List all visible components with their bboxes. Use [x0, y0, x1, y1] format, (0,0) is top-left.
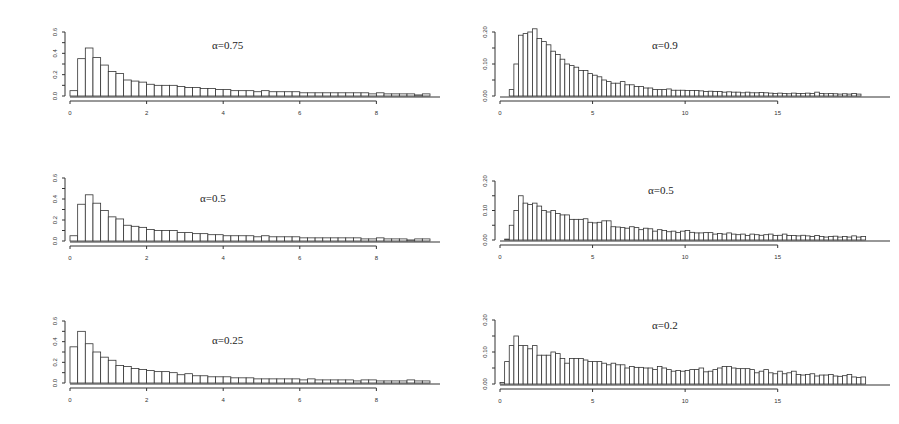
histogram-bar	[78, 331, 86, 383]
histogram-panel-middle-left: 024680.00.20.40.6α=0.5	[30, 168, 440, 268]
histogram-bar	[509, 90, 514, 96]
histogram-svg: 0510150.000.100.20α=0.2	[470, 305, 890, 405]
histogram-bar	[185, 374, 193, 383]
histogram-bar	[514, 64, 519, 96]
histogram-bar	[639, 86, 644, 96]
histogram-bar	[200, 234, 208, 241]
histogram-bar	[778, 371, 783, 384]
histogram-bar	[727, 92, 732, 96]
histogram-bar	[78, 204, 86, 241]
histogram-bar	[200, 376, 208, 383]
histogram-bar	[208, 377, 216, 383]
histogram-bar	[147, 229, 155, 241]
x-tick-label: 0	[68, 110, 72, 116]
histogram-panel-top-left: 024680.00.20.40.6α=0.75	[30, 22, 440, 122]
histogram-bar	[330, 238, 338, 241]
x-tick-label: 2	[145, 110, 149, 116]
histogram-bar	[574, 358, 579, 384]
histogram-bar	[653, 231, 658, 240]
histogram-bar	[685, 91, 690, 96]
histogram-bar	[856, 94, 861, 96]
histogram-bar	[597, 362, 602, 384]
panel-title: α=0.75	[212, 39, 244, 51]
histogram-bar	[824, 94, 829, 96]
histogram-bar	[602, 363, 607, 384]
histogram-bar	[93, 203, 101, 241]
histogram-bar	[616, 227, 621, 240]
histogram-bar	[611, 363, 616, 384]
histogram-bar	[829, 93, 834, 96]
y-tick-label: 0.20	[482, 175, 488, 187]
histogram-bar	[690, 370, 695, 384]
histogram-bar	[369, 94, 377, 96]
histogram-bar	[193, 376, 201, 383]
histogram-bar	[269, 92, 277, 96]
histogram-bar	[755, 373, 760, 384]
y-tick-label: 0.2	[52, 358, 58, 367]
histogram-bar	[648, 88, 653, 96]
panel-title: α=0.5	[648, 184, 674, 196]
x-tick-label: 10	[682, 398, 689, 404]
histogram-bar	[108, 217, 116, 241]
histogram-bar	[384, 239, 392, 241]
x-tick-label: 15	[774, 254, 781, 260]
histogram-bar	[745, 369, 750, 384]
histogram-bar	[630, 227, 635, 240]
bars	[70, 48, 430, 96]
histogram-bar	[323, 93, 331, 96]
histogram-bar	[300, 93, 308, 96]
histogram-bar	[731, 92, 736, 96]
histogram-bar	[597, 222, 602, 240]
histogram-bar	[139, 227, 147, 241]
histogram-bar	[842, 236, 847, 240]
y-tick-label: 0.0	[52, 378, 58, 387]
histogram-bar	[778, 235, 783, 240]
histogram-bar	[528, 205, 533, 240]
histogram-bar	[805, 93, 810, 96]
histogram-bar	[842, 94, 847, 96]
histogram-bar	[193, 87, 201, 96]
histogram-bar	[116, 365, 124, 383]
x-tick-label: 4	[222, 110, 226, 116]
histogram-bar	[805, 236, 810, 240]
histogram-bar	[708, 91, 713, 96]
histogram-bar	[588, 222, 593, 240]
histogram-bar	[246, 91, 254, 96]
histogram-bar	[616, 365, 621, 384]
histogram-bar	[330, 93, 338, 96]
panel-title: α=0.9	[652, 39, 678, 51]
histogram-bar	[713, 370, 718, 384]
y-tick-label: 0.6	[52, 316, 58, 325]
histogram-bar	[602, 80, 607, 96]
x-tick-label: 8	[375, 110, 379, 116]
histogram-bar	[611, 227, 616, 240]
x-tick-label: 5	[591, 398, 595, 404]
histogram-bar	[829, 374, 834, 384]
histogram-bar	[833, 376, 838, 384]
histogram-bar	[648, 368, 653, 384]
histogram-bar	[528, 349, 533, 384]
histogram-bar	[415, 381, 423, 383]
histogram-bar	[690, 91, 695, 96]
histogram-svg: 024680.00.20.40.6α=0.75	[30, 22, 440, 122]
histogram-bar	[384, 381, 392, 383]
histogram-bar	[768, 373, 773, 384]
histogram-bar	[565, 64, 570, 96]
histogram-bar	[500, 382, 505, 384]
bars	[500, 336, 866, 384]
histogram-bar	[796, 236, 801, 240]
histogram-bar	[315, 93, 323, 96]
histogram-bar	[704, 92, 709, 96]
histogram-bar	[792, 236, 797, 240]
x-tick-label: 8	[375, 255, 379, 261]
histogram-bar	[782, 374, 787, 384]
histogram-bar	[292, 379, 300, 383]
histogram-bar	[750, 370, 755, 384]
histogram-bar	[162, 372, 170, 383]
y-tick-label: 0.00	[482, 378, 488, 390]
histogram-panel-bottom-left: 024680.00.20.40.6α=0.25	[30, 308, 440, 408]
histogram-bar	[537, 206, 542, 240]
histogram-bar	[369, 380, 377, 383]
histogram-bar	[85, 344, 93, 383]
histogram-bar	[606, 221, 611, 240]
